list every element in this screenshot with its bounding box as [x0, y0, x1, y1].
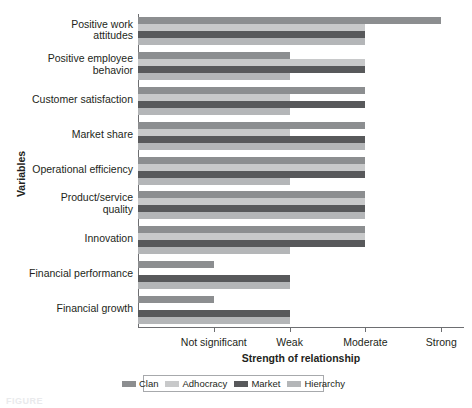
x-axis-tick — [214, 327, 215, 332]
bar — [138, 66, 365, 73]
bar — [138, 24, 365, 31]
legend-label: Market — [251, 378, 280, 389]
bar — [138, 233, 365, 240]
bar — [138, 94, 290, 101]
bar-group — [138, 191, 464, 219]
bar — [138, 101, 365, 108]
y-axis-tick-label: Product/service quality — [0, 192, 133, 216]
legend-item[interactable]: Adhocracy — [165, 378, 227, 389]
bar — [138, 164, 365, 171]
bar — [138, 52, 290, 59]
y-axis-tick-label: Operational efficiency — [0, 164, 133, 176]
bar — [138, 178, 290, 185]
bar — [138, 17, 441, 24]
x-axis-tick-label: Strong — [426, 336, 457, 348]
legend-label: Clan — [139, 378, 159, 389]
legend-label: Hierarchy — [304, 378, 345, 389]
bar-group — [138, 122, 464, 150]
bar — [138, 296, 214, 303]
figure-caption: FIGURE — [6, 396, 43, 406]
bar — [138, 73, 290, 80]
bar-group — [138, 261, 464, 289]
plot-area — [138, 14, 464, 327]
legend-swatch-icon — [122, 381, 136, 387]
legend-swatch-icon — [287, 381, 301, 387]
bar — [138, 136, 365, 143]
bar — [138, 157, 365, 164]
legend: ClanAdhocracyMarketHierarchy — [143, 375, 324, 392]
bar — [138, 59, 365, 66]
bar-group — [138, 226, 464, 254]
bar — [138, 317, 290, 324]
bar-group — [138, 52, 464, 80]
y-axis-tick-label: Positive work attitudes — [0, 19, 133, 43]
bar — [138, 310, 290, 317]
bar — [138, 171, 365, 178]
x-axis-tick — [441, 327, 442, 332]
legend-item[interactable]: Market — [234, 378, 280, 389]
x-axis-tick-label: Not significant — [181, 336, 247, 348]
y-axis-tick-label: Market share — [0, 129, 133, 141]
legend-item[interactable]: Hierarchy — [287, 378, 345, 389]
y-axis-tick-label: Customer satisfaction — [0, 94, 133, 106]
bar — [138, 191, 365, 198]
x-axis-tick — [290, 327, 291, 332]
bar — [138, 240, 365, 247]
bar — [138, 129, 290, 136]
bar — [138, 38, 365, 45]
bar — [138, 282, 290, 289]
legend-swatch-icon — [165, 381, 179, 387]
bar — [138, 122, 365, 129]
bar — [138, 212, 365, 219]
y-axis-tick-label: Positive employee behavior — [0, 53, 133, 77]
legend-swatch-icon — [234, 381, 248, 387]
y-axis-tick-label: Financial growth — [0, 303, 133, 315]
bar-chart: Variables Positive work attitudesPositiv… — [0, 0, 472, 408]
x-axis-tick-label: Moderate — [343, 336, 387, 348]
legend-label: Adhocracy — [182, 378, 227, 389]
bar — [138, 226, 365, 233]
x-axis-title: Strength of relationship — [138, 352, 464, 364]
x-axis-tick — [365, 327, 366, 332]
bar — [138, 247, 290, 254]
bar — [138, 261, 214, 268]
y-axis-tick-label: Financial performance — [0, 268, 133, 280]
bar — [138, 31, 365, 38]
x-axis-tick-label: Weak — [276, 336, 303, 348]
bar — [138, 108, 290, 115]
bar-group — [138, 17, 464, 45]
bar-group — [138, 296, 464, 324]
bar — [138, 87, 365, 94]
bar — [138, 143, 365, 150]
legend-item[interactable]: Clan — [122, 378, 159, 389]
bar-group — [138, 157, 464, 185]
bar-group — [138, 87, 464, 115]
bar — [138, 198, 365, 205]
y-axis-tick-label: Innovation — [0, 233, 133, 245]
bar — [138, 275, 290, 282]
bar — [138, 205, 365, 212]
x-axis-line — [138, 327, 464, 328]
